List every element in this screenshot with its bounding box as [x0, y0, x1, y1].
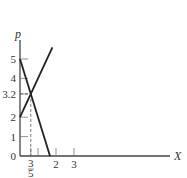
y-tick-label: 1 [11, 131, 17, 143]
x-tick-label: 2 [53, 158, 59, 170]
y-axis-label: p [14, 27, 21, 41]
y-tick-label: 3.2 [2, 88, 16, 100]
x-tick-label-denominator: 5 [28, 167, 34, 178]
chart-container: Xp0123.2453523 [0, 0, 187, 178]
y-tick-label: 5 [11, 53, 17, 65]
y-tick-label: 0 [11, 150, 17, 162]
x-axis-label: X [173, 149, 182, 163]
y-tick-label: 2 [11, 111, 17, 123]
x-tick-label: 3 [71, 158, 77, 170]
y-tick-label: 4 [11, 72, 17, 84]
supply-line [20, 47, 52, 117]
supply-demand-chart: Xp0123.2453523 [0, 0, 187, 178]
